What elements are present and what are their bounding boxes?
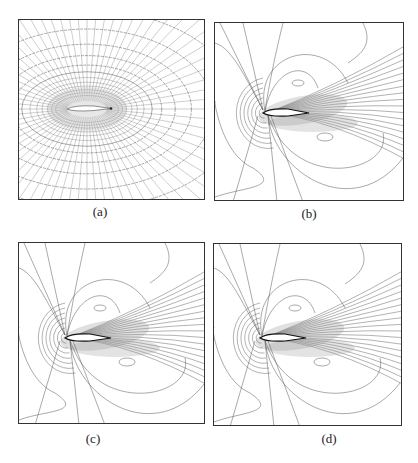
caption-a: (a) [80,204,120,220]
caption-b: (b) [289,206,329,222]
panel-c-contours [18,242,205,424]
contour-plot [215,23,404,201]
caption-c: (c) [73,431,113,447]
panel-b-contours [214,22,404,201]
contour-plot [214,244,402,426]
caption-d: (d) [309,431,349,447]
panel-a-mesh [18,19,205,200]
mesh-plot [19,20,205,200]
panel-d-contours [213,243,402,426]
contour-plot [19,243,205,424]
